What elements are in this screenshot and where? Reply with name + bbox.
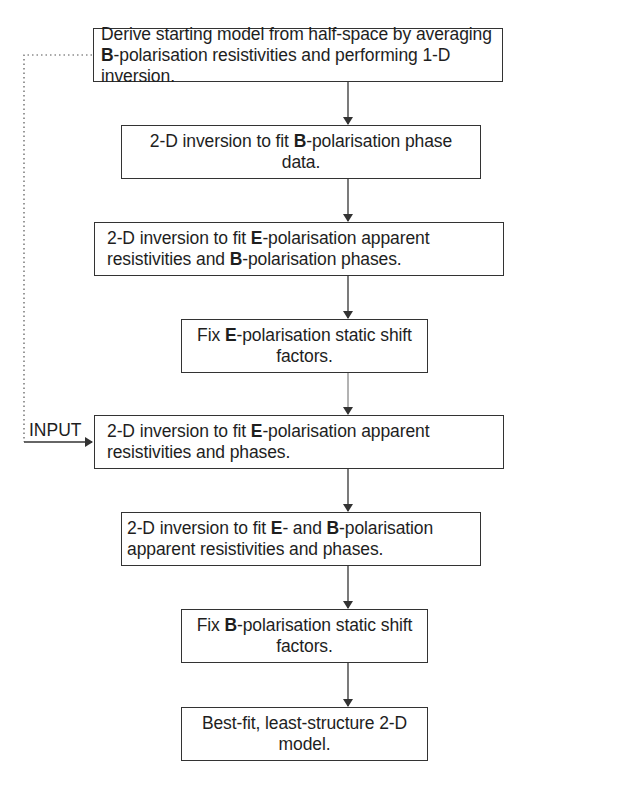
- bold-term: E: [251, 228, 263, 248]
- step-6-text: 2-D inversion to fit E- and B-polarisati…: [127, 518, 472, 560]
- connectors: [0, 0, 619, 792]
- step-7-text: Fix B-polarisation static shift factors.: [184, 615, 425, 657]
- step-4-box: Fix E-polarisation static shift factors.: [181, 319, 428, 373]
- step-6-box: 2-D inversion to fit E- and B-polarisati…: [121, 512, 481, 566]
- input-label: INPUT: [29, 420, 82, 440]
- text-segment: - and: [282, 518, 326, 538]
- step-2-box: 2-D inversion to fit B-polarisation phas…: [121, 125, 481, 179]
- step-4-text: Fix E-polarisation static shift factors.: [186, 325, 423, 367]
- text-segment: 2-D inversion to fit: [127, 518, 271, 538]
- step-8-text: Best-fit, least-structure 2-D model.: [190, 713, 419, 755]
- text-segment: Best-fit, least-structure 2-D model.: [202, 713, 407, 754]
- step-7-box: Fix B-polarisation static shift factors.: [181, 609, 428, 663]
- step-2-text: 2-D inversion to fit B-polarisation phas…: [130, 131, 472, 173]
- step-5-text: 2-D inversion to fit E-polarisation appa…: [107, 421, 495, 463]
- text-segment: 2-D inversion to fit: [150, 131, 294, 151]
- bold-term: E: [251, 421, 263, 441]
- bold-term: B: [294, 131, 307, 151]
- bold-term: B: [327, 518, 340, 538]
- step-8-box: Best-fit, least-structure 2-D model.: [181, 707, 428, 761]
- text-segment: -polarisation resistivities and performi…: [101, 45, 450, 86]
- text-segment: 2-D inversion to fit: [107, 228, 251, 248]
- bold-term: B: [224, 615, 237, 635]
- dotted-feedback-line: [24, 55, 92, 442]
- bold-term: B: [101, 45, 114, 65]
- bold-term: E: [225, 325, 237, 345]
- step-1-text: Derive starting model from half-space by…: [101, 24, 494, 87]
- step-5-box: 2-D inversion to fit E-polarisation appa…: [94, 415, 504, 469]
- step-3-text: 2-D inversion to fit E-polarisation appa…: [107, 228, 495, 270]
- text-segment: -polarisation static shift factors.: [237, 615, 412, 656]
- text-segment: Fix: [197, 615, 225, 635]
- text-segment: Derive starting model from half-space by…: [101, 24, 492, 44]
- bold-term: E: [271, 518, 283, 538]
- text-segment: 2-D inversion to fit: [107, 421, 251, 441]
- text-segment: Fix: [197, 325, 225, 345]
- step-1-box: Derive starting model from half-space by…: [93, 28, 503, 82]
- text-segment: -polarisation static shift factors.: [236, 325, 411, 366]
- text-segment: -polarisation phase data.: [282, 131, 452, 172]
- step-3-box: 2-D inversion to fit E-polarisation appa…: [94, 222, 504, 276]
- bold-term: B: [230, 249, 243, 269]
- text-segment: -polarisation phases.: [242, 249, 401, 269]
